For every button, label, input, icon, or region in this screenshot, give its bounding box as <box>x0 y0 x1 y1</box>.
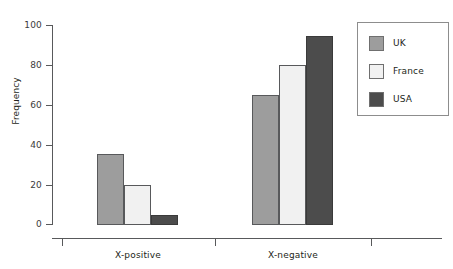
bar-x-negative-usa <box>306 36 333 225</box>
legend-item-uk: UK <box>369 35 447 51</box>
y-tick-40 <box>46 145 53 146</box>
y-tick-80 <box>46 65 53 66</box>
legend-swatch-france-icon <box>369 64 384 79</box>
y-tick-60 <box>46 105 53 106</box>
legend-label-france: France <box>393 66 424 76</box>
bar-x-negative-france <box>279 65 306 225</box>
x-group-label-x-positive: X-positive <box>83 250 193 260</box>
y-tick-100 <box>46 25 53 26</box>
legend-swatch-usa-icon <box>369 92 384 107</box>
x-tick-right <box>371 238 372 246</box>
legend-item-france: France <box>369 63 447 79</box>
legend-item-usa: USA <box>369 91 447 107</box>
y-tick-label-60: 60 <box>2 100 42 110</box>
bar-x-positive-france <box>124 185 151 225</box>
legend-label-usa: USA <box>393 94 412 104</box>
legend: UK France USA <box>357 22 449 116</box>
y-tick-label-0: 0 <box>2 219 42 229</box>
y-tick-label-40: 40 <box>2 140 42 150</box>
bar-x-positive-usa <box>151 215 178 225</box>
y-tick-0 <box>46 224 53 225</box>
bar-chart: Frequency 100 80 60 40 20 0 X-positive X… <box>0 0 453 269</box>
y-tick-20 <box>46 185 53 186</box>
y-tick-label-80: 80 <box>2 60 42 70</box>
x-axis-line <box>52 238 442 239</box>
bar-x-negative-uk <box>252 95 279 225</box>
legend-label-uk: UK <box>393 38 406 48</box>
y-axis-line <box>52 25 53 225</box>
x-tick-left <box>62 238 63 246</box>
bar-x-positive-uk <box>97 154 124 225</box>
x-group-label-x-negative: X-negative <box>238 250 348 260</box>
y-tick-label-20: 20 <box>2 180 42 190</box>
legend-swatch-uk-icon <box>369 36 384 51</box>
x-tick-middle <box>215 238 216 246</box>
y-tick-label-100: 100 <box>2 20 42 30</box>
